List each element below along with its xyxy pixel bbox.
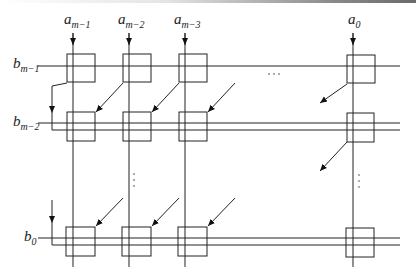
cell-r3-c4 xyxy=(346,228,374,257)
label-b-0: b0 xyxy=(24,228,37,247)
cell-r2-c4 xyxy=(347,113,374,142)
cell-r3-c2 xyxy=(122,227,151,256)
ellipsis-horizontal xyxy=(268,73,280,75)
feedback-arrow-row2 xyxy=(52,83,67,113)
label-a-0: a0 xyxy=(348,11,361,30)
cell-r1-c2 xyxy=(123,54,151,82)
diag-arrow-r3-c2 xyxy=(152,198,179,226)
diag-arrow-r3-c3 xyxy=(208,198,235,226)
cell-r2-c2 xyxy=(123,112,151,141)
systolic-array-diagram: am−1 am−2 am−3 a0 bm−1 bm−2 b0 xyxy=(0,0,416,277)
ellipsis-vertical-col4 xyxy=(358,174,360,188)
diag-arrow-r3-c1 xyxy=(96,198,123,226)
cell-r3-c3 xyxy=(178,227,207,256)
diag-arrow-r2-c2 xyxy=(152,83,179,112)
diag-arrow-r1-c4-out xyxy=(320,84,347,103)
diag-arrow-r2-c3 xyxy=(208,83,235,112)
cell-r2-c3 xyxy=(179,112,207,141)
ellipsis-vertical-col2 xyxy=(133,173,135,187)
cell-r3-c1 xyxy=(66,227,95,256)
cell-r1-c1 xyxy=(67,54,95,82)
diag-arrow-r2-c1 xyxy=(96,83,123,112)
cell-r1-c4 xyxy=(347,55,375,83)
label-a-m-3: am−3 xyxy=(174,11,200,30)
cell-r2-c1 xyxy=(67,112,95,141)
label-a-m-2: am−2 xyxy=(118,11,144,30)
label-b-m-1: bm−1 xyxy=(13,55,39,74)
label-a-m-1: am−1 xyxy=(64,11,90,30)
diag-arrow-r2-c4-out xyxy=(320,142,347,171)
label-b-m-2: bm−2 xyxy=(13,113,39,132)
cell-r1-c3 xyxy=(179,54,207,82)
